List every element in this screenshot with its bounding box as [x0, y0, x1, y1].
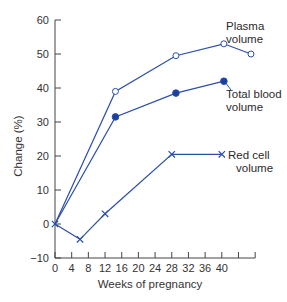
series-label: Total blood	[226, 88, 282, 100]
x-tick-label: 28	[166, 262, 178, 274]
y-tick-label: 50	[37, 48, 49, 60]
series-line	[55, 154, 222, 239]
series-label: volume	[226, 33, 263, 45]
x-tick-label: 16	[116, 262, 128, 274]
series-label: Red cell	[228, 149, 270, 161]
series-label: volume	[226, 101, 263, 113]
y-tick-label: 20	[37, 150, 49, 162]
x-tick-label: 36	[199, 262, 211, 274]
series-label: Plasma	[226, 20, 265, 32]
x-tick-label: 32	[182, 262, 194, 274]
chart: −1001020304050600481216202428323640Weeks…	[0, 0, 287, 302]
series-line	[55, 44, 251, 224]
y-tick-label: 0	[43, 218, 49, 230]
y-tick-label: 30	[37, 116, 49, 128]
series-labels: PlasmavolumeTotal bloodvolumeRed cellvol…	[226, 20, 282, 174]
x-marker	[77, 236, 83, 242]
x-tick-label: 24	[149, 262, 161, 274]
open-circle-marker	[248, 51, 254, 57]
series-total-blood-volume	[55, 78, 227, 224]
series-group	[52, 41, 254, 243]
x-tick-label: 8	[85, 262, 91, 274]
x-tick-label: 40	[216, 262, 228, 274]
x-tick-label: 20	[132, 262, 144, 274]
series-plasma-volume	[55, 41, 254, 224]
x-tick-label: 0	[52, 262, 58, 274]
y-tick-label: −10	[30, 252, 49, 264]
open-circle-marker	[112, 88, 118, 94]
open-circle-marker	[173, 53, 179, 59]
x-tick-label: 12	[99, 262, 111, 274]
x-marker	[102, 211, 108, 217]
filled-circle-marker	[173, 90, 180, 97]
y-tick-label: 60	[37, 14, 49, 26]
filled-circle-marker	[112, 114, 119, 121]
x-axis-title: Weeks of pregnancy	[98, 278, 203, 290]
y-tick-label: 10	[37, 184, 49, 196]
series-red-cell-volume	[52, 151, 225, 242]
x-tick-label: 4	[69, 262, 75, 274]
y-tick-label: 40	[37, 82, 49, 94]
series-label: volume	[236, 162, 273, 174]
y-axis-title: Change (%)	[12, 115, 24, 177]
series-line	[55, 81, 224, 224]
